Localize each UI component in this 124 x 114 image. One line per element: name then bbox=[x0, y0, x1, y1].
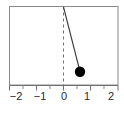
pendulum-bob-marker bbox=[75, 67, 85, 77]
x-tick-label-two: 2 bbox=[101, 90, 121, 103]
x-tick-label-zero: 0 bbox=[54, 90, 74, 103]
x-tick-label-minus2: −2 bbox=[6, 90, 26, 103]
x-tick-label-one: 1 bbox=[77, 90, 97, 103]
pendulum-figure: −2 −1 0 1 2 bbox=[0, 0, 124, 114]
x-tick-label-minus1: −1 bbox=[30, 90, 50, 103]
